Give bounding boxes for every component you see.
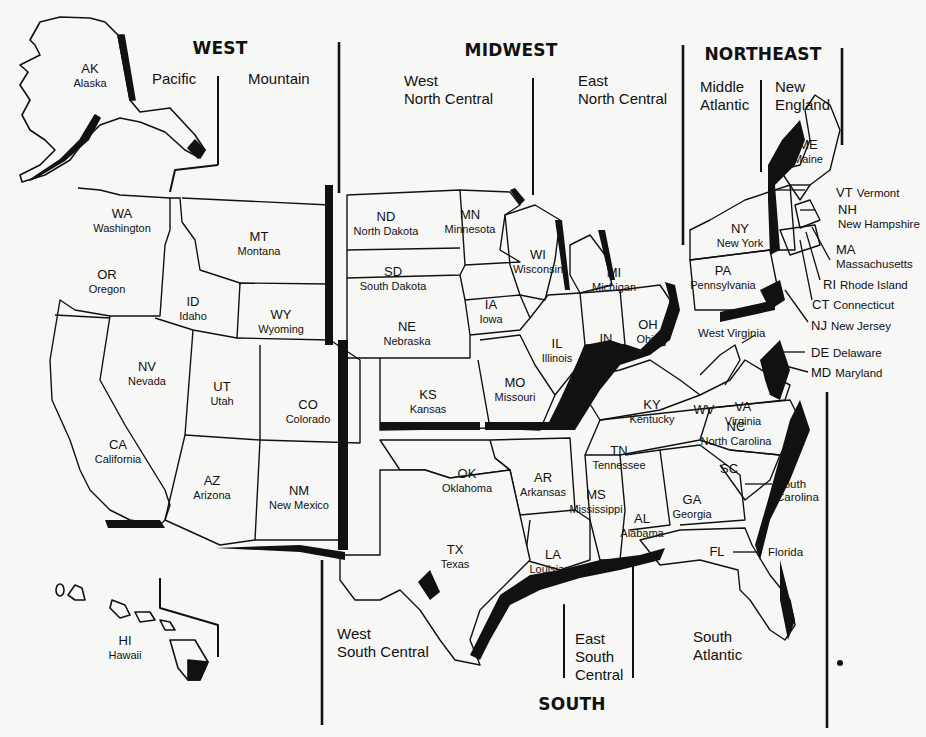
state-label-mo: MOMissouri <box>495 376 536 404</box>
state-label-wi: WIWisconsin <box>513 248 563 276</box>
state-label-co: COColorado <box>286 398 331 426</box>
state-abbr: IA <box>479 298 502 313</box>
ext-label-ct: CTConnecticut <box>812 298 894 313</box>
state-label-ga: GAGeorgia <box>672 493 711 521</box>
state-name: Kentucky <box>629 413 674 426</box>
division-east-south-central: East South Central <box>575 630 623 684</box>
state-label-nm: NMNew Mexico <box>269 484 329 512</box>
state-label-oh: OHOhio <box>636 318 659 346</box>
state-name: Arizona <box>193 489 230 502</box>
state-name: Arkansas <box>520 486 566 499</box>
division-west-south-central: West South Central <box>337 625 429 661</box>
state-name: Michigan <box>592 281 636 294</box>
state-label-tn: TNTennessee <box>592 444 645 472</box>
state-abbr: OK <box>442 467 492 482</box>
state-name: Kansas <box>410 403 447 416</box>
state-abbr: KY <box>629 398 674 413</box>
state-abbr: SC <box>720 462 738 477</box>
state-name: Ohio <box>636 333 659 346</box>
state-name: Wyoming <box>258 323 304 336</box>
state-abbr: MN <box>445 208 496 223</box>
state-abbr: PA <box>690 264 755 279</box>
state-label-or: OROregon <box>89 268 126 296</box>
state-label-in: INIndiana <box>588 332 624 360</box>
state-abbr: TN <box>592 444 645 459</box>
state-name: Minnesota <box>445 223 496 236</box>
state-name: Nebraska <box>383 335 430 348</box>
state-label-sd: SDSouth Dakota <box>360 265 427 293</box>
state-label-nv: NVNevada <box>128 360 166 388</box>
state-abbr: IL <box>542 337 573 352</box>
state-label-wy: WYWyoming <box>258 308 304 336</box>
state-name: Alabama <box>620 527 663 540</box>
division-middle-atlantic: Middle Atlantic <box>700 78 749 114</box>
state-name: Tennessee <box>592 459 645 472</box>
ext-label-sc-name: South Carolina <box>776 478 836 504</box>
division-new-england: New England <box>775 78 830 114</box>
state-label-ne: NENebraska <box>383 320 430 348</box>
ext-label-ri: RIRhode Island <box>823 278 908 293</box>
state-abbr: ND <box>354 210 419 225</box>
state-name: Hawaii <box>108 649 141 662</box>
state-abbr: NC <box>701 420 772 435</box>
state-name: Pennsylvania <box>690 279 755 292</box>
state-abbr: WV <box>694 403 715 418</box>
state-abbr: MI <box>592 266 636 281</box>
division-mountain: Mountain <box>248 70 310 88</box>
state-abbr: GA <box>672 493 711 508</box>
state-abbr: ID <box>179 295 207 310</box>
state-name: Wisconsin <box>513 263 563 276</box>
state-abbr: MS <box>569 488 622 503</box>
state-name: New Mexico <box>269 499 329 512</box>
state-label-tx: TXTexas <box>441 543 470 571</box>
state-name: California <box>95 453 141 466</box>
state-name: Texas <box>441 558 470 571</box>
state-name: Oregon <box>89 283 126 296</box>
state-abbr: OH <box>636 318 659 333</box>
state-abbr: AK <box>73 62 106 77</box>
state-label-ut: UTUtah <box>210 380 233 408</box>
state-label-ny: NYNew York <box>717 222 763 250</box>
state-label-wv-name: West Virginia <box>698 327 765 340</box>
state-label-hi: HIHawaii <box>108 634 141 662</box>
state-abbr: WI <box>513 248 563 263</box>
hawaii-shape <box>56 584 208 680</box>
state-name: North Carolina <box>701 435 772 448</box>
state-abbr: NE <box>383 320 430 335</box>
print-dot <box>837 660 843 666</box>
state-label-ar: ARArkansas <box>520 471 566 499</box>
division-pacific: Pacific <box>152 70 196 88</box>
state-abbr: ME <box>793 138 823 153</box>
state-name: Alaska <box>73 77 106 90</box>
state-label-sc: SC <box>720 462 738 477</box>
state-label-mt: MTMontana <box>238 230 281 258</box>
state-label-ak: AKAlaska <box>73 62 106 90</box>
state-name: Illinois <box>542 352 573 365</box>
state-abbr: AR <box>520 471 566 486</box>
state-name: Colorado <box>286 413 331 426</box>
state-label-wa: WAWashington <box>93 207 151 235</box>
state-name: Georgia <box>672 508 711 521</box>
state-label-ca: CACalifornia <box>95 438 141 466</box>
state-name: North Dakota <box>354 225 419 238</box>
state-abbr: MT <box>238 230 281 245</box>
state-name: Montana <box>238 245 281 258</box>
state-boundaries <box>50 95 840 665</box>
state-label-az: AZArizona <box>193 474 230 502</box>
state-abbr: VA <box>725 400 762 415</box>
region-northeast: NORTHEAST <box>704 44 821 64</box>
state-abbr: NV <box>128 360 166 375</box>
state-abbr: TX <box>441 543 470 558</box>
state-label-ky: KYKentucky <box>629 398 674 426</box>
state-name: Mississippi <box>569 503 622 516</box>
region-west: WEST <box>192 38 247 58</box>
state-name: Utah <box>210 395 233 408</box>
state-label-nd: NDNorth Dakota <box>354 210 419 238</box>
ext-label-ma: MAMassachusetts <box>836 243 913 271</box>
state-name: New York <box>717 237 763 250</box>
ext-label-vt: VTVermont <box>836 186 899 201</box>
state-label-wv: WV <box>694 403 715 418</box>
state-name: Washington <box>93 222 151 235</box>
region-midwest: MIDWEST <box>465 40 558 60</box>
state-abbr: AL <box>620 512 663 527</box>
